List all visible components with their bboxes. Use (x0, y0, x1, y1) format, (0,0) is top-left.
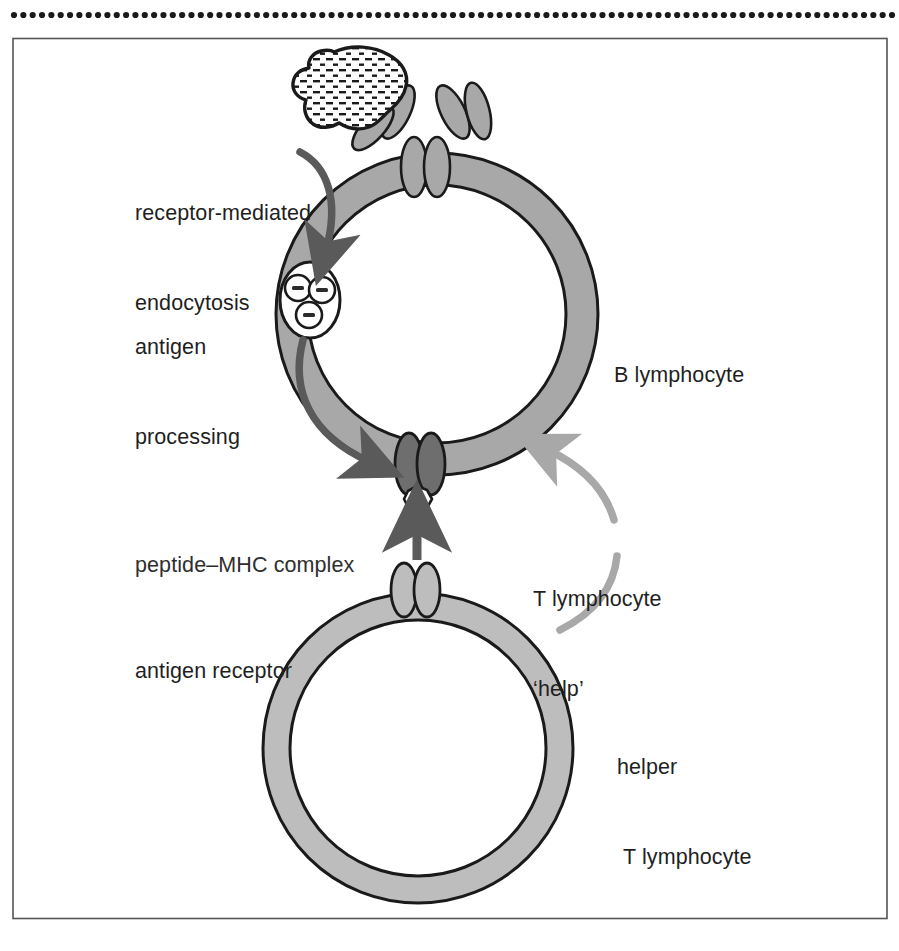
rule-dot (30, 12, 36, 18)
rule-dot (525, 12, 531, 18)
rule-dot (20, 12, 26, 18)
rule-dot (767, 12, 773, 18)
rule-dot (160, 12, 166, 18)
label-b-lymphocyte: B lymphocyte (614, 300, 744, 450)
rule-dot (179, 12, 185, 18)
rule-dot (39, 12, 45, 18)
rule-dot (861, 12, 867, 18)
rule-dot (226, 12, 232, 18)
label-antigen-processing: antigen processing (135, 272, 240, 512)
rule-dot (534, 12, 540, 18)
rule-dot (777, 12, 783, 18)
rule-dot (618, 12, 624, 18)
rule-dot (58, 12, 64, 18)
rule-dot (413, 12, 419, 18)
rule-dot (375, 12, 381, 18)
rule-dot (702, 12, 708, 18)
rule-dot (758, 12, 764, 18)
rule-dot (833, 12, 839, 18)
rule-dot (581, 12, 587, 18)
rule-dot (637, 12, 643, 18)
label-line: helper (617, 752, 752, 782)
rule-dot (796, 12, 802, 18)
rule-dot (300, 12, 306, 18)
dotted-rule (11, 12, 895, 18)
rule-dot (151, 12, 157, 18)
rule-dot (394, 12, 400, 18)
rule-dot (104, 12, 110, 18)
rule-dot (571, 12, 577, 18)
label-line: antigen (135, 332, 240, 362)
rule-dot (599, 12, 605, 18)
rule-dot (441, 12, 447, 18)
rule-dot (842, 12, 848, 18)
rule-dot (469, 12, 475, 18)
rule-dot (553, 12, 559, 18)
rule-dot (506, 12, 512, 18)
rule-dot (366, 12, 372, 18)
rule-dot (338, 12, 344, 18)
rule-dot (590, 12, 596, 18)
rule-dot (693, 12, 699, 18)
presented-peptide (404, 486, 432, 512)
rule-dot (450, 12, 456, 18)
rule-dot (403, 12, 409, 18)
rule-dot (655, 12, 661, 18)
label-antigen-receptor: antigen receptor (135, 596, 292, 746)
rule-dot (543, 12, 549, 18)
rule-dot (739, 12, 745, 18)
rule-dot (515, 12, 521, 18)
rule-dot (67, 12, 73, 18)
rule-dot (889, 12, 895, 18)
rule-dot (123, 12, 129, 18)
rule-dot (244, 12, 250, 18)
rule-dot (142, 12, 148, 18)
rule-dot (95, 12, 101, 18)
peptide-mhc-complex (395, 433, 445, 512)
rule-dot (487, 12, 493, 18)
rule-dot (207, 12, 213, 18)
rule-dot (497, 12, 503, 18)
rule-dot (282, 12, 288, 18)
rule-dot (749, 12, 755, 18)
rule-dot (86, 12, 92, 18)
label-line: T lymphocyte (617, 842, 752, 872)
label-line: antigen receptor (135, 656, 292, 686)
rule-dot (730, 12, 736, 18)
rule-dot (646, 12, 652, 18)
rule-dot (852, 12, 858, 18)
rule-dot (76, 12, 82, 18)
rule-dot (216, 12, 222, 18)
rule-dot (319, 12, 325, 18)
rule-dot (48, 12, 54, 18)
rule-dot (310, 12, 316, 18)
rule-dot (11, 12, 17, 18)
label-line: T lymphocyte (533, 584, 662, 614)
rule-dot (683, 12, 689, 18)
label-line: receptor-mediated (135, 198, 311, 228)
rule-dot (272, 12, 278, 18)
rule-dot (198, 12, 204, 18)
rule-dot (132, 12, 138, 18)
rule-dot (674, 12, 680, 18)
rule-dot (805, 12, 811, 18)
rule-dot (478, 12, 484, 18)
rule-dot (347, 12, 353, 18)
rule-dot (814, 12, 820, 18)
rule-dot (431, 12, 437, 18)
rule-dot (235, 12, 241, 18)
rule-dot (357, 12, 363, 18)
rule-dot (562, 12, 568, 18)
rule-dot (721, 12, 727, 18)
label-helper-t-lymphocyte: helper T lymphocyte (617, 692, 752, 932)
rule-dot (291, 12, 297, 18)
rule-dot (609, 12, 615, 18)
rule-dot (711, 12, 717, 18)
rule-dot (422, 12, 428, 18)
rule-dot (170, 12, 176, 18)
label-line: peptide–MHC complex (135, 550, 354, 580)
rule-dot (870, 12, 876, 18)
rule-dot (459, 12, 465, 18)
rule-dot (627, 12, 633, 18)
rule-dot (824, 12, 830, 18)
